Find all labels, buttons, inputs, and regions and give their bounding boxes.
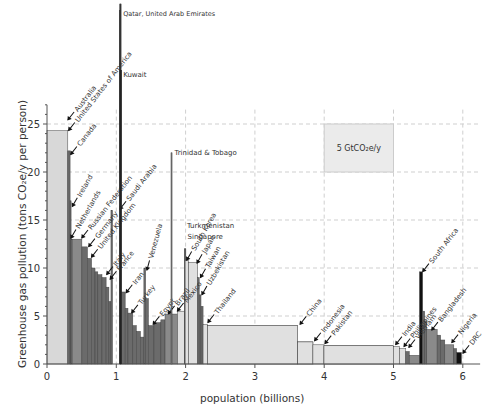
- bar: [203, 325, 208, 364]
- bar: [148, 326, 154, 364]
- bar: [457, 352, 462, 364]
- bar: [133, 326, 136, 364]
- bar: [95, 272, 98, 364]
- bar: [437, 335, 440, 364]
- country-label: China: [297, 297, 324, 328]
- country-name-flat: Kuwait: [123, 71, 147, 79]
- country-name: United States of America: [74, 50, 134, 124]
- y-tick-label: 5: [34, 311, 40, 322]
- bar: [313, 345, 324, 364]
- country-name-flat: Singapore: [188, 233, 223, 241]
- bars-group: [47, 4, 461, 364]
- bar: [201, 306, 203, 364]
- bar: [102, 278, 106, 364]
- bar: [427, 329, 437, 364]
- bar: [154, 323, 161, 364]
- country-name: Thailand: [212, 287, 237, 316]
- bar: [298, 342, 313, 364]
- y-axis-label: Greenhouse gas pollution (tons CO₂e/y pe…: [16, 94, 28, 374]
- bar: [406, 352, 409, 364]
- scale-legend-box: 5 GtCO₂e/y: [324, 124, 393, 172]
- bar: [445, 345, 454, 364]
- y-tick-label: 20: [27, 167, 40, 178]
- country-label: Turkey: [129, 284, 157, 317]
- country-name: China: [305, 297, 324, 318]
- bar: [72, 239, 82, 364]
- bar: [146, 299, 149, 364]
- country-name: Canada: [76, 122, 99, 148]
- x-tick-label: 5: [390, 371, 396, 382]
- country-name: South Africa: [428, 227, 460, 265]
- bar: [409, 355, 419, 364]
- x-tick-label: 2: [182, 371, 188, 382]
- bar: [144, 268, 146, 364]
- bar: [208, 326, 298, 364]
- bar: [98, 275, 102, 364]
- x-axis-label: population (billions): [200, 392, 304, 404]
- bar: [125, 308, 128, 364]
- bar: [136, 331, 140, 364]
- x-tick-label: 0: [44, 371, 50, 382]
- country-name-flat: Turkmenistan: [186, 222, 234, 230]
- bar: [199, 295, 201, 364]
- bar: [140, 337, 143, 364]
- bar: [87, 258, 91, 364]
- bar: [106, 287, 109, 364]
- emissions-chart: 5 GtCO₂e/y 05101520250123456 AustraliaUn…: [0, 0, 486, 414]
- country-name-flat: Trinidad & Tobago: [173, 149, 236, 157]
- y-tick-label: 25: [27, 119, 40, 130]
- bar: [161, 320, 165, 364]
- x-tick-label: 1: [113, 371, 119, 382]
- y-tick-label: 0: [34, 359, 40, 370]
- country-label: Thailand: [205, 287, 238, 326]
- country-name: Bangladesh: [437, 286, 469, 323]
- scale-box-label: 5 GtCO₂e/y: [337, 144, 382, 153]
- bar: [109, 302, 111, 364]
- country-name-flat: Qatar, United Arab Emirates: [123, 10, 216, 18]
- country-name: Venezuela: [147, 223, 164, 260]
- x-tick-label: 6: [460, 371, 466, 382]
- bar: [454, 349, 457, 364]
- country-name: DRC: [468, 330, 483, 347]
- bar: [393, 347, 399, 364]
- x-tick-label: 4: [321, 371, 327, 382]
- bar: [68, 151, 70, 364]
- country-label: United States of America: [66, 50, 134, 134]
- bar: [82, 247, 88, 364]
- y-tick-label: 10: [27, 263, 40, 274]
- bar: [128, 313, 133, 364]
- bar: [441, 340, 445, 364]
- bar: [47, 131, 68, 364]
- bar: [92, 268, 95, 364]
- bar: [324, 346, 393, 364]
- bar: [400, 349, 406, 364]
- bar: [189, 262, 198, 364]
- bar: [177, 311, 184, 364]
- country-label: Canada: [68, 122, 99, 158]
- country-label: Venezuela: [144, 223, 164, 272]
- x-tick-label: 3: [252, 371, 258, 382]
- bar: [185, 260, 188, 364]
- y-tick-label: 15: [27, 215, 40, 226]
